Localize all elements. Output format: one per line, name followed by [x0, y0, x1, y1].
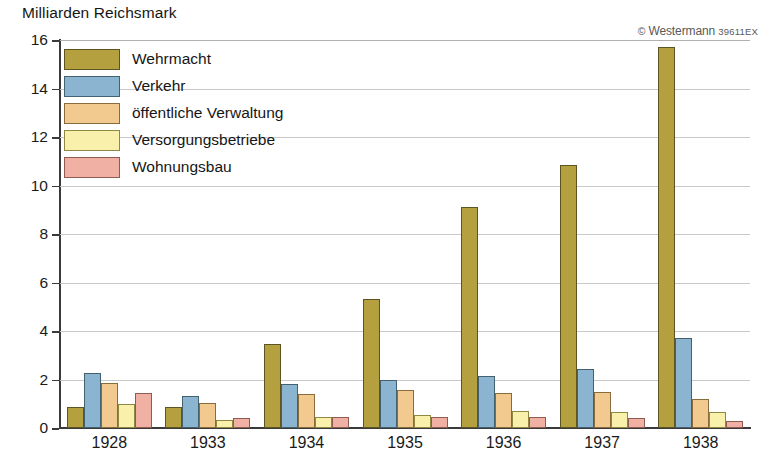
copyright-icon: ©: [638, 25, 646, 37]
bar: [611, 412, 628, 428]
legend: WehrmachtVerkehröffentliche VerwaltungVe…: [64, 46, 324, 181]
bar: [478, 376, 495, 428]
publisher-name: Westermann: [648, 24, 715, 38]
x-tick-label: 1938: [683, 434, 719, 452]
y-tick-mark: [52, 89, 59, 91]
legend-swatch: [64, 103, 120, 124]
y-tick-mark: [52, 331, 59, 333]
bar: [512, 411, 529, 428]
legend-item: öffentliche Verwaltung: [64, 100, 324, 126]
bar: [431, 417, 448, 428]
bar: [380, 380, 397, 429]
x-tick-label: 1935: [387, 434, 423, 452]
y-axis-tick-labels: 0246810121416: [0, 0, 48, 468]
legend-label: Versorgungsbetriebe: [132, 131, 275, 149]
bar: [298, 394, 315, 428]
bar: [461, 207, 478, 428]
y-tick-label: 14: [4, 80, 48, 98]
legend-item: Versorgungsbetriebe: [64, 127, 324, 153]
y-tick-mark: [52, 283, 59, 285]
y-tick-label: 0: [4, 419, 48, 437]
bar: [233, 418, 250, 428]
y-tick-mark: [52, 234, 59, 236]
y-tick-label: 16: [4, 31, 48, 49]
bar: [199, 403, 216, 428]
y-tick-label: 10: [4, 177, 48, 195]
bar: [315, 417, 332, 428]
y-tick-mark: [52, 428, 59, 430]
y-tick-label: 12: [4, 128, 48, 146]
bar: [577, 369, 594, 428]
y-tick-mark: [52, 380, 59, 382]
bar-group: [461, 40, 546, 428]
bar: [692, 399, 709, 428]
y-tick-mark: [52, 40, 59, 42]
bar: [216, 420, 233, 428]
y-tick-label: 2: [4, 371, 48, 389]
bar: [135, 393, 152, 428]
bar: [332, 417, 349, 428]
x-tick-label: 1928: [91, 434, 127, 452]
x-tick-label: 1933: [190, 434, 226, 452]
publisher-code: 39611EX: [718, 26, 758, 37]
x-tick-label: 1937: [584, 434, 620, 452]
legend-label: Verkehr: [132, 77, 185, 95]
bar: [101, 383, 118, 428]
bar: [118, 404, 135, 428]
bar: [363, 299, 380, 428]
bar-group: [363, 40, 448, 428]
y-tick-label: 4: [4, 322, 48, 340]
bar-chart: Milliarden Reichsmark © Westermann 39611…: [0, 0, 766, 468]
legend-label: öffentliche Verwaltung: [132, 104, 283, 122]
bar: [560, 165, 577, 428]
bar: [165, 407, 182, 428]
y-tick-mark: [52, 137, 59, 139]
legend-swatch: [64, 76, 120, 97]
legend-item: Wehrmacht: [64, 46, 324, 72]
bar: [182, 396, 199, 428]
y-tick-label: 6: [4, 274, 48, 292]
legend-label: Wehrmacht: [132, 50, 211, 68]
bar: [67, 407, 84, 428]
legend-swatch: [64, 130, 120, 151]
bar: [529, 417, 546, 428]
bar: [264, 344, 281, 428]
bar: [675, 338, 692, 428]
bar-group: [560, 40, 645, 428]
bar: [281, 384, 298, 428]
legend-item: Wohnungsbau: [64, 154, 324, 180]
bar: [414, 415, 431, 428]
y-tick-label: 8: [4, 225, 48, 243]
bar: [709, 412, 726, 428]
x-tick-label: 1936: [486, 434, 522, 452]
legend-label: Wohnungsbau: [132, 158, 232, 176]
bar: [628, 418, 645, 428]
bar: [658, 47, 675, 428]
legend-swatch: [64, 49, 120, 70]
y-tick-mark: [52, 186, 59, 188]
legend-swatch: [64, 157, 120, 178]
bar: [84, 373, 101, 428]
copyright-credit: © Westermann 39611EX: [638, 24, 758, 38]
bar: [397, 390, 414, 428]
bar-group: [658, 40, 743, 428]
legend-item: Verkehr: [64, 73, 324, 99]
bar: [495, 393, 512, 428]
x-tick-label: 1934: [289, 434, 325, 452]
bar: [726, 421, 743, 428]
bar: [594, 392, 611, 428]
